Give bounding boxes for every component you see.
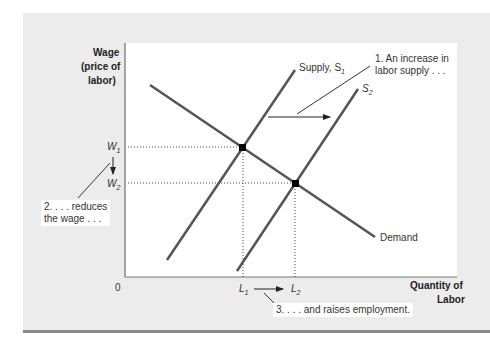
x-axis-label-2: Labor (437, 294, 465, 306)
l2-label: L2 (291, 283, 300, 299)
note-raises-employment: 3. . . . and raises employment. (273, 303, 413, 317)
note2-leader (78, 163, 110, 198)
w2-label: W2 (107, 178, 120, 194)
y-axis-label-1: Wage (93, 47, 119, 59)
note-increase-supply: 1. An increase in labor supply . . . (372, 52, 452, 78)
demand-label: Demand (380, 232, 418, 244)
l1-label: L1 (239, 283, 248, 299)
equilibrium-point-2 (292, 180, 299, 187)
supply1-curve (167, 70, 295, 260)
demand-curve (150, 85, 375, 237)
supply1-label: Supply, S1 (299, 62, 345, 78)
origin-label: 0 (115, 282, 121, 294)
note-reduces-wage: 2. . . . reduces the wage . . . (41, 200, 110, 226)
y-axis-label-3: labor) (88, 75, 116, 87)
supply2-label: S2 (362, 83, 373, 99)
equilibrium-point-1 (239, 144, 246, 151)
x-axis-label-1: Quantity of (410, 280, 463, 292)
w1-label: W1 (107, 141, 120, 157)
y-axis-label-2: (price of (81, 61, 120, 73)
